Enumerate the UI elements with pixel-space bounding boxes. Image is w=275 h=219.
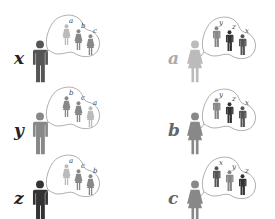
male-person-icon: [238, 34, 247, 56]
female-person-icon: [74, 169, 83, 191]
female-person-icon: [74, 29, 83, 51]
preference-man-z: [225, 30, 234, 56]
preference-label: z: [245, 167, 249, 175]
preference-woman-c: [86, 34, 95, 60]
preference-label: a: [69, 17, 73, 25]
preference-man-x: [212, 166, 221, 192]
male-person-icon: [212, 26, 221, 48]
preference-woman-b: [86, 174, 95, 200]
woman-label-a: a: [168, 48, 179, 68]
female-person-icon: [86, 174, 95, 196]
preference-label: y: [219, 91, 223, 99]
man-label-x: x: [14, 48, 24, 68]
preference-label: c: [81, 162, 85, 170]
preference-man-y: [225, 170, 234, 196]
preference-label: x: [245, 99, 249, 107]
preference-label: b: [69, 89, 73, 97]
female-person-icon: [86, 106, 95, 128]
woman-label-b: b: [168, 120, 180, 140]
female-person-icon: [74, 101, 83, 123]
female-person-icon: [62, 164, 71, 186]
preference-woman-a: [62, 164, 71, 190]
preference-woman-c: [74, 101, 83, 127]
female-person-icon: [62, 96, 71, 118]
preference-man-x: [238, 34, 247, 60]
male-person-icon: [238, 174, 247, 196]
male-person-icon: [225, 30, 234, 52]
male-person-icon: [212, 166, 221, 188]
male-person-icon: [238, 106, 247, 128]
preference-label: c: [81, 94, 85, 102]
preference-label: a: [69, 157, 73, 165]
preference-label: z: [232, 23, 236, 31]
preference-woman-a: [86, 106, 95, 132]
female-person-icon: [62, 24, 71, 46]
preference-woman-c: [74, 169, 83, 195]
man-label-z: z: [14, 188, 24, 208]
preference-label: x: [219, 159, 223, 167]
preference-label: x: [245, 27, 249, 35]
preference-man-z: [238, 174, 247, 200]
preference-woman-a: [62, 24, 71, 50]
male-person-icon: [212, 98, 221, 120]
preference-man-y: [212, 26, 221, 52]
preference-man-y: [212, 98, 221, 124]
preference-man-x: [238, 106, 247, 132]
preference-label: z: [232, 95, 236, 103]
female-person-icon: [86, 34, 95, 56]
male-person-icon: [225, 102, 234, 124]
preference-woman-b: [62, 96, 71, 122]
man-label-y: y: [14, 120, 24, 140]
preference-label: y: [232, 163, 236, 171]
preference-label: b: [93, 167, 97, 175]
preference-label: y: [219, 19, 223, 27]
preference-label: a: [93, 99, 97, 107]
male-person-icon: [225, 170, 234, 192]
preference-woman-b: [74, 29, 83, 55]
preference-man-z: [225, 102, 234, 128]
woman-label-c: c: [168, 188, 178, 208]
preference-label: b: [81, 22, 85, 30]
preference-label: c: [93, 27, 97, 35]
